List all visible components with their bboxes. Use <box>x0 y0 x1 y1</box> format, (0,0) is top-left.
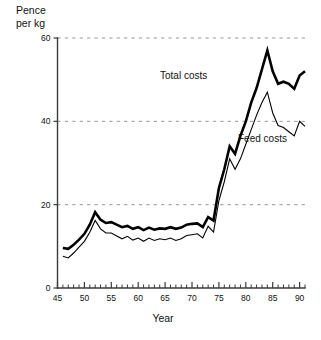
x-tick-label-80: 80 <box>241 293 251 303</box>
y-axis-title-line1: Pence <box>16 4 46 16</box>
y-tick-label-20: 20 <box>41 200 51 210</box>
series-label-total-costs: Total costs <box>160 70 207 81</box>
x-tick-label-55: 55 <box>107 293 117 303</box>
y-axis-title-line2: per kg <box>16 17 45 29</box>
x-tick-label-65: 65 <box>160 293 170 303</box>
y-axis-tick-labels: 0204060 <box>41 33 51 293</box>
y-tick-label-0: 0 <box>46 283 51 293</box>
x-tick-label-45: 45 <box>53 293 63 303</box>
y-tick-label-60: 60 <box>41 33 51 43</box>
x-tick-label-60: 60 <box>133 293 143 303</box>
x-axis-ticks <box>58 282 306 288</box>
x-tick-label-70: 70 <box>187 293 197 303</box>
chart-figure: 0204060 45505560657075808590 Pence per k… <box>0 0 321 340</box>
x-tick-label-50: 50 <box>80 293 90 303</box>
x-tick-label-75: 75 <box>214 293 224 303</box>
series-label-feed-costs: Feed costs <box>238 133 287 144</box>
y-tick-label-40: 40 <box>41 116 51 126</box>
gridlines <box>58 38 306 205</box>
x-tick-label-90: 90 <box>295 293 305 303</box>
series-line-feed-costs <box>63 92 305 258</box>
line-chart: 0204060 45505560657075808590 Pence per k… <box>0 0 321 340</box>
x-axis-title: Year <box>152 312 174 324</box>
x-axis-tick-labels: 45505560657075808590 <box>53 293 305 303</box>
x-tick-label-85: 85 <box>268 293 278 303</box>
data-series <box>63 51 305 259</box>
